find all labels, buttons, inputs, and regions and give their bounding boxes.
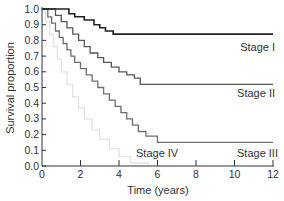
y-ticks: 0.00.10.20.30.40.50.60.70.80.91.0 (24, 3, 46, 172)
y-tick-label: 0.4 (24, 97, 39, 109)
label-stage-ii: Stage II (237, 87, 275, 99)
x-tick-label: 2 (78, 168, 84, 180)
y-tick-label: 0.9 (24, 18, 39, 30)
curve-stage-iv (42, 9, 148, 166)
curve-stage-i (42, 9, 273, 34)
x-tick-label: 8 (193, 168, 199, 180)
x-tick-label: 12 (267, 168, 279, 180)
y-tick-label: 0.2 (24, 128, 39, 140)
x-tick-label: 6 (155, 168, 161, 180)
y-tick-label: 1.0 (24, 3, 39, 15)
x-axis-title: Time (years) (127, 184, 188, 196)
x-tick-label: 10 (229, 168, 241, 180)
label-stage-iv: Stage IV (136, 147, 179, 159)
label-stage-iii: Stage III (237, 147, 278, 159)
survival-chart: 0.00.10.20.30.40.50.60.70.80.91.0 024681… (0, 0, 284, 201)
label-stage-i: Stage I (240, 41, 275, 53)
y-tick-label: 0.0 (24, 160, 39, 172)
y-axis-title: Survival proportion (4, 42, 16, 134)
y-tick-label: 0.7 (24, 50, 39, 62)
y-tick-label: 0.8 (24, 34, 39, 46)
curve-stage-ii (42, 9, 273, 84)
x-ticks: 024681012 (39, 160, 279, 180)
y-tick-label: 0.5 (24, 81, 39, 93)
curve-stage-iii (42, 9, 273, 142)
x-tick-label: 0 (39, 168, 45, 180)
x-tick-label: 4 (116, 168, 122, 180)
y-tick-label: 0.3 (24, 112, 39, 124)
y-tick-label: 0.6 (24, 65, 39, 77)
y-tick-label: 0.1 (24, 144, 39, 156)
